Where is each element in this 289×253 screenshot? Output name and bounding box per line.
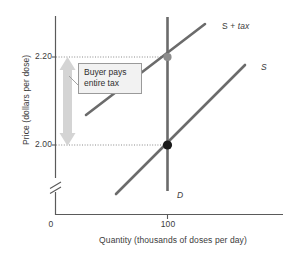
curve-label-supply-plus-tax: S + tax [222,22,249,32]
x-tick-label-100: 100 [155,220,181,230]
callout-line-2: entire tax [84,78,137,89]
axis-break-icon [50,182,61,194]
y-tick-label-220: 2.20 [26,52,52,62]
y-tick-label-200: 2.00 [26,140,52,150]
chart-plot-area [0,0,289,253]
x-axis-title: Quantity (thousands of doses per day) [62,236,284,246]
curve-label-demand: D [177,191,183,201]
callout-line-1: Buyer pays [84,67,137,78]
annotation-callout-buyer-pays-entire-tax: Buyer pays entire tax [78,63,142,94]
equilibrium-point-before-tax[interactable] [163,140,172,149]
tax-incidence-chart: Price (dollars per dose) Quantity (thous… [0,0,289,253]
origin-label: 0 [44,220,58,230]
tax-span-arrow [60,57,76,146]
curve-label-supply-plus-tax-prefix: S + [222,21,238,31]
curve-label-supply: S [261,63,267,73]
curve-label-supply-plus-tax-italic: tax [238,21,250,31]
equilibrium-point-after-tax[interactable] [163,53,171,61]
